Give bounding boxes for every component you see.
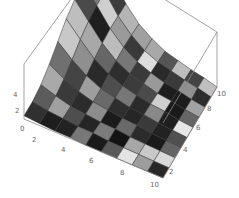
x-tick-label: 6	[89, 157, 94, 165]
z-axis-ticks: 0 2 4	[13, 91, 24, 133]
x-tick-label: 8	[120, 169, 124, 177]
y-tick-label: 6	[196, 124, 201, 132]
y-tick-label: 10	[217, 90, 226, 98]
surface-mesh	[24, 0, 217, 178]
x-tick-label: 10	[150, 181, 159, 189]
y-tick-label: 2	[169, 168, 173, 176]
surface-plot-3d: 0 2 4 2 4 6 8 10 2 4 6 8 10	[0, 0, 239, 198]
x-tick-label: 4	[61, 146, 66, 154]
z-tick-label: 4	[13, 91, 18, 99]
y-tick-label: 8	[207, 105, 211, 113]
z-tick-label: 2	[15, 107, 19, 115]
z-tick-label: 0	[20, 125, 24, 133]
x-tick-label: 2	[32, 136, 36, 144]
y-tick-label: 4	[183, 146, 188, 154]
